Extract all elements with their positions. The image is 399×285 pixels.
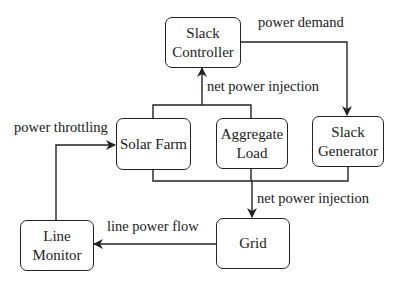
- node-label: Generator: [318, 142, 378, 161]
- edge-label-power-demand: power demand: [258, 14, 344, 30]
- edge-label-net-power-injection-bottom: net power injection: [257, 190, 369, 206]
- edge-label-line-power-flow: line power flow: [107, 218, 199, 234]
- node-label: Load: [221, 144, 283, 163]
- slack-generator-node: SlackGenerator: [312, 116, 384, 167]
- node-label: Solar Farm: [120, 135, 187, 154]
- line-monitor-node: LineMonitor: [20, 220, 94, 271]
- grid-node: Grid: [216, 218, 290, 269]
- slack-controller-node: SlackController: [165, 17, 241, 68]
- node-label: Grid: [239, 234, 267, 253]
- edge-label-net-power-injection-top: net power injection: [207, 78, 319, 94]
- solar-farm-node: Solar Farm: [116, 118, 191, 170]
- aggregate-load-node: AggregateLoad: [216, 118, 288, 169]
- node-label: Slack: [318, 123, 378, 142]
- edge-label-power-throttling: power throttling: [14, 119, 108, 135]
- node-label: Monitor: [32, 246, 81, 265]
- node-label: Aggregate: [221, 125, 283, 144]
- node-label: Slack: [172, 24, 234, 43]
- node-label: Line: [32, 227, 81, 246]
- node-label: Controller: [172, 43, 234, 62]
